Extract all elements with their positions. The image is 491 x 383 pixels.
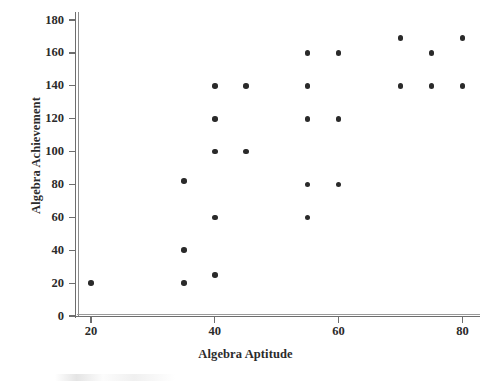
data-point [398,35,404,41]
x-axis-line [75,316,480,317]
data-point [243,149,249,155]
x-tick-label-60: 60 [314,325,364,338]
data-point [181,247,187,253]
scan-artifact [55,374,175,381]
data-point [398,83,404,89]
data-point [429,50,435,56]
data-point [212,149,218,155]
data-point [305,83,311,89]
y-tick-80 [69,184,75,185]
x-tick-20 [90,317,91,323]
data-point [429,83,435,89]
y-tick-label-60: 60 [18,211,64,224]
x-tick-60 [338,317,339,323]
data-point [181,178,187,184]
y-tick-180 [69,19,75,20]
y-tick-label-180: 180 [18,14,64,27]
x-tick-80 [462,317,463,323]
y-tick-0 [69,315,75,316]
data-point [460,83,466,89]
y-tick-20 [69,283,75,284]
x-tick-label-40: 40 [190,325,240,338]
y-tick-label-20: 20 [18,277,64,290]
data-point [88,280,94,286]
y-tick-100 [69,151,75,152]
data-point [305,116,311,122]
y-tick-160 [69,52,75,53]
y-tick-60 [69,217,75,218]
data-point [336,182,342,188]
data-point [212,215,218,221]
data-point [305,182,311,188]
y-tick-label-140: 140 [18,79,64,92]
y-tick-label-120: 120 [18,112,64,125]
x-axis-title: Algebra Aptitude [0,347,491,362]
x-axis-line-inner [77,314,480,315]
data-point [336,116,342,122]
data-point [305,50,311,56]
y-tick-label-80: 80 [18,178,64,191]
y-tick-label-100: 100 [18,145,64,158]
y-tick-label-0: 0 [18,310,64,323]
data-point [460,35,466,41]
y-tick-40 [69,250,75,251]
data-point [336,50,342,56]
data-point [212,83,218,89]
data-point [212,272,218,278]
y-tick-140 [69,85,75,86]
scatter-plot-figure: Algebra Achievement Algebra Aptitude 020… [0,0,491,383]
data-point [243,83,249,89]
x-tick-40 [214,317,215,323]
y-axis-line-inner [78,12,79,316]
data-point [181,280,187,286]
data-point [212,116,218,122]
data-point [305,215,311,221]
y-tick-120 [69,118,75,119]
x-tick-label-80: 80 [437,325,487,338]
y-tick-label-40: 40 [18,244,64,257]
y-axis-line [75,12,76,318]
y-tick-label-160: 160 [18,46,64,59]
x-tick-label-20: 20 [66,325,116,338]
